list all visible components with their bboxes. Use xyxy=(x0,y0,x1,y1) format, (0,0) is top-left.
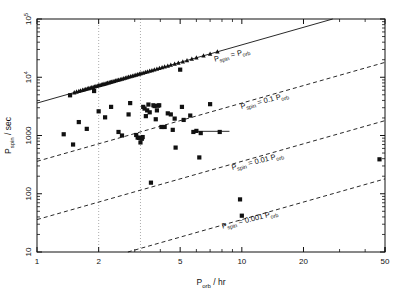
data-point-square xyxy=(182,118,186,122)
data-point-square xyxy=(126,112,130,116)
data-point-square xyxy=(169,112,173,116)
data-point-square xyxy=(199,131,203,135)
data-point-square xyxy=(377,157,381,161)
data-point-square xyxy=(71,142,75,146)
data-point-square xyxy=(103,115,107,119)
y-axis-tick-labels: 101001000104105 xyxy=(23,13,33,256)
data-point-square xyxy=(109,105,113,109)
data-series-squares xyxy=(62,68,382,218)
data-point-square xyxy=(77,120,81,124)
data-point-square xyxy=(154,117,158,121)
data-point-square xyxy=(144,114,148,118)
data-point-square xyxy=(146,102,150,106)
data-point-square xyxy=(194,129,198,133)
data-point-square xyxy=(171,128,175,132)
y-tick-label: 105 xyxy=(23,13,33,25)
reference-line-2 xyxy=(37,121,385,220)
data-point-square xyxy=(148,110,152,114)
data-point-square xyxy=(157,103,161,107)
annotation-0: Pspin = Porb xyxy=(213,46,251,65)
data-point-square xyxy=(174,145,178,149)
x-axis-title: Porb / hr xyxy=(197,277,226,289)
y-axis-title: Pspin / sec xyxy=(3,116,15,154)
data-point-square xyxy=(92,89,96,93)
x-tick-label: 20 xyxy=(299,257,308,266)
data-point-square xyxy=(238,197,242,201)
data-point-square xyxy=(208,102,212,106)
x-tick-label: 2 xyxy=(96,257,101,266)
x-tick-label: 5 xyxy=(178,257,183,266)
data-point-square xyxy=(149,181,153,185)
y-tick-label: 1000 xyxy=(24,126,33,144)
data-point-square xyxy=(97,109,101,113)
reference-line-1 xyxy=(37,62,385,161)
figure-container: 125102050 101001000104105 Pspin = PorbPs… xyxy=(0,0,408,292)
x-tick-label: 1 xyxy=(35,257,40,266)
data-point-square xyxy=(141,135,145,139)
x-tick-label: 50 xyxy=(381,257,390,266)
data-point-square xyxy=(180,105,184,109)
data-point-square xyxy=(188,113,192,117)
x-tick-label: 10 xyxy=(237,257,246,266)
data-point-square xyxy=(155,108,159,112)
data-point-square xyxy=(173,117,177,121)
data-point-square xyxy=(128,101,132,105)
x-axis-tick-labels: 125102050 xyxy=(35,257,390,266)
data-point-square xyxy=(85,127,89,131)
y-tick-label: 10 xyxy=(24,247,33,256)
data-series-triangles xyxy=(72,49,220,94)
y-tick-label: 100 xyxy=(24,187,33,201)
data-point-square xyxy=(138,140,142,144)
line-annotations: Pspin = PorbPspin = 0.1 PorbPspin = 0.01… xyxy=(213,46,290,232)
data-point-square xyxy=(120,133,124,137)
annotation-2: Pspin = 0.01 Porb xyxy=(230,150,284,173)
data-point-square xyxy=(178,68,182,72)
data-point-square xyxy=(163,125,167,129)
data-point-square xyxy=(62,132,66,136)
y-tick-label: 104 xyxy=(23,71,33,83)
data-point-square xyxy=(218,130,222,134)
scatter-plot: 125102050 101001000104105 Pspin = PorbPs… xyxy=(0,0,408,292)
data-point-square xyxy=(68,93,72,97)
data-point-square xyxy=(197,155,201,159)
